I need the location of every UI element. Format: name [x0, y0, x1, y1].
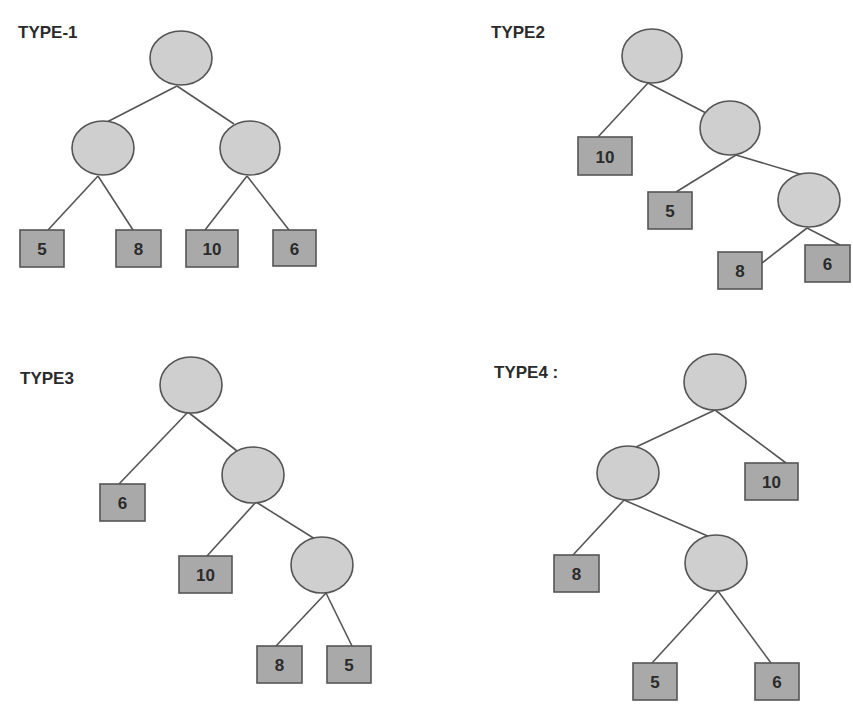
tree-edge	[715, 410, 786, 463]
leaf-node: 10	[578, 137, 632, 175]
tree-edge	[807, 228, 840, 245]
leaf-node: 10	[179, 556, 232, 593]
tree-edge	[177, 86, 234, 124]
tree-edge	[48, 176, 98, 230]
tree-edge	[256, 502, 315, 539]
tree-edge	[207, 502, 256, 556]
leaf-value: 8	[735, 262, 744, 281]
leaf-value: 8	[134, 240, 143, 259]
internal-node	[700, 101, 760, 155]
leaf-value: 6	[772, 673, 781, 692]
tree-2: 10586TYPE2	[491, 23, 850, 289]
tree-edge	[648, 83, 706, 113]
leaf-node: 8	[116, 230, 161, 267]
leaf-node: 6	[805, 245, 850, 282]
tree-edge	[676, 155, 736, 192]
leaf-value: 10	[196, 566, 215, 585]
internal-node	[72, 121, 134, 175]
tree-1: 58106TYPE-1	[18, 23, 316, 267]
leaf-node: 10	[186, 230, 238, 267]
internal-node	[160, 357, 222, 413]
tree-edge	[652, 591, 718, 663]
leaf-node: 5	[327, 646, 371, 683]
leaf-value: 5	[665, 202, 674, 221]
leaf-node: 6	[100, 484, 145, 521]
tree-edge	[326, 593, 352, 646]
leaf-value: 10	[596, 148, 615, 167]
tree-edge	[624, 500, 710, 537]
internal-node	[222, 447, 284, 503]
tree-edge	[762, 228, 807, 263]
tree-edge	[98, 176, 133, 230]
tree-edge	[718, 591, 771, 663]
leaf-value: 10	[762, 473, 781, 492]
leaf-value: 5	[37, 240, 46, 259]
internal-node	[597, 446, 659, 500]
tree-edge	[573, 500, 624, 555]
leaf-node: 5	[633, 663, 677, 700]
leaf-value: 6	[823, 255, 832, 274]
tree-edge	[188, 412, 237, 451]
leaf-node: 5	[20, 230, 64, 267]
tree-edge	[119, 412, 188, 484]
tree-diagram-canvas: 58106TYPE-110586TYPE261085TYPE310856TYPE…	[0, 0, 853, 712]
leaf-value: 6	[290, 240, 299, 259]
tree-type-label: TYPE3	[20, 369, 74, 388]
leaf-node: 6	[755, 663, 799, 700]
tree-edge	[636, 410, 715, 447]
leaf-node: 8	[257, 646, 302, 683]
internal-node	[150, 31, 212, 85]
tree-edge	[247, 176, 289, 230]
leaf-node: 10	[745, 463, 798, 500]
internal-node	[291, 537, 353, 593]
tree-edge	[598, 83, 648, 137]
leaf-value: 8	[572, 565, 581, 584]
leaf-node: 5	[648, 192, 692, 229]
tree-4: 10856TYPE4 :	[494, 354, 799, 700]
leaf-value: 8	[275, 656, 284, 675]
leaf-node: 8	[718, 252, 762, 289]
leaf-node: 6	[273, 230, 316, 266]
tree-edge	[736, 155, 803, 175]
leaf-value: 5	[344, 656, 353, 675]
tree-type-label: TYPE-1	[18, 23, 78, 42]
tree-edge	[107, 86, 177, 122]
internal-node	[220, 121, 280, 175]
internal-node	[778, 173, 840, 227]
tree-type-label: TYPE4 :	[494, 363, 558, 382]
tree-edge	[205, 176, 247, 230]
internal-node	[685, 535, 747, 591]
tree-type-label: TYPE2	[491, 23, 545, 42]
internal-node	[622, 29, 682, 83]
internal-node	[684, 354, 746, 410]
leaf-value: 10	[203, 240, 222, 259]
tree-3: 61085TYPE3	[20, 357, 371, 683]
leaf-node: 8	[554, 555, 599, 592]
tree-edge	[276, 593, 326, 646]
leaf-value: 6	[118, 494, 127, 513]
leaf-value: 5	[650, 673, 659, 692]
